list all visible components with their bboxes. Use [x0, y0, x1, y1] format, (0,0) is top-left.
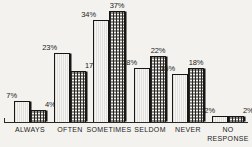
bar-value-never-a: 16% — [160, 64, 175, 73]
bar-wrap-always-a: 7% — [14, 101, 30, 122]
bar-wrap-always-b: 4% — [30, 110, 46, 122]
bar-no-response-a — [212, 116, 228, 122]
bar-wrap-no-response-a: 2% — [212, 116, 228, 122]
bar-value-often-a: 23% — [42, 43, 57, 52]
bar-value-never-b: 18% — [189, 58, 204, 67]
bar-value-always-a: 7% — [6, 91, 17, 100]
bar-wrap-no-response-b: 2% — [228, 116, 244, 122]
bar-wrap-seldom-a: 18% — [134, 68, 150, 122]
x-axis-origin-tick — [4, 118, 5, 123]
bar-wrap-never-b: 18% — [188, 68, 204, 122]
category-label-always: ALWAYS — [8, 126, 52, 135]
bar-often-a — [54, 53, 70, 122]
bar-value-no-response-a: 2% — [204, 106, 215, 115]
bar-never-b — [188, 68, 204, 122]
bar-group-no-response: 2% 2% — [206, 116, 250, 122]
bar-group-always: 7% 4% — [8, 101, 52, 122]
category-label-no-response: NO RESPONSE — [204, 126, 252, 143]
bar-always-b — [30, 110, 46, 122]
bar-always-a — [14, 101, 30, 122]
bar-wrap-often-a: 23% — [54, 53, 70, 122]
bar-no-response-b — [228, 116, 244, 122]
bar-value-seldom-b: 22% — [151, 46, 166, 55]
bar-seldom-a — [134, 68, 150, 122]
x-axis-baseline — [4, 122, 248, 123]
bar-value-sometimes-a: 34% — [81, 10, 96, 19]
bar-wrap-often-b: 17% — [70, 71, 86, 122]
bar-value-no-response-b: 2% — [243, 106, 252, 115]
bar-wrap-never-a: 16% — [172, 74, 188, 122]
bar-value-seldom-a: 18% — [122, 58, 137, 67]
bar-value-sometimes-b: 37% — [110, 1, 125, 10]
bar-wrap-sometimes-a: 34% — [93, 20, 109, 122]
plot-area: 7% 4% 23% 17% 34% — [0, 0, 252, 123]
category-label-sometimes: SOMETIMES — [84, 126, 134, 135]
bar-often-b — [70, 71, 86, 122]
bar-chart-figure: 7% 4% 23% 17% 34% — [0, 0, 252, 147]
bar-never-a — [172, 74, 188, 122]
bar-sometimes-a — [93, 20, 109, 122]
category-axis: ALWAYS OFTEN SOMETIMES SELDOM NEVER NO R… — [0, 124, 252, 147]
